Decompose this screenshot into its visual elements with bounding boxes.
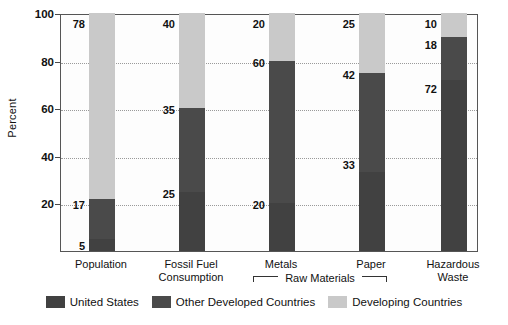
- segment-united-states: [89, 239, 115, 251]
- y-tick-60: 60: [24, 103, 54, 115]
- plot-area: 78 17 5 40 35 25 20 60 20 25 42 33: [60, 14, 478, 252]
- legend-swatch-icon-other-developed-countries: [152, 296, 171, 308]
- segment-developing-countries: [89, 13, 115, 199]
- segment-united-states: [441, 80, 467, 251]
- value-label-paper-other: 42: [325, 69, 355, 81]
- bracket-label: Raw Materials: [278, 272, 362, 284]
- legend-label-developing-countries: Developing Countries: [352, 296, 462, 308]
- segment-other-developed-countries: [89, 199, 115, 239]
- segment-developing-countries: [359, 13, 385, 73]
- value-label-hazardous-us: 72: [407, 83, 437, 95]
- x-label-hazardous-waste: Hazardous Waste: [426, 258, 479, 284]
- legend-item-developing-countries[interactable]: Developing Countries: [328, 296, 462, 308]
- bar-fossil-fuel-consumption[interactable]: [179, 13, 205, 251]
- value-label-population-other: 17: [55, 199, 85, 211]
- value-label-metals-developing: 20: [235, 18, 265, 30]
- value-label-metals-us: 20: [235, 199, 265, 211]
- bar-metals[interactable]: [269, 13, 295, 251]
- x-label-fossil-fuel: Fossil Fuel Consumption: [159, 258, 224, 284]
- segment-united-states: [269, 203, 295, 251]
- value-label-metals-other: 60: [235, 57, 265, 69]
- value-label-fossil-us: 25: [145, 188, 175, 200]
- segment-united-states: [179, 192, 205, 252]
- value-label-population-developing: 78: [55, 18, 85, 30]
- chart-legend: United States Other Developed Countries …: [0, 296, 508, 308]
- stacked-bar-chart: Percent 100 80 60 40 20 78 17 5: [0, 0, 508, 325]
- legend-label-united-states: United States: [70, 296, 139, 308]
- segment-other-developed-countries: [179, 108, 205, 191]
- raw-materials-bracket: Raw Materials: [253, 276, 387, 290]
- bracket-tick-right: [386, 276, 387, 282]
- legend-swatch-icon-developing-countries: [328, 296, 347, 308]
- value-label-hazardous-developing: 10: [407, 18, 437, 30]
- y-tick-40: 40: [24, 151, 54, 163]
- segment-united-states: [359, 172, 385, 251]
- bar-population[interactable]: [89, 13, 115, 251]
- segment-developing-countries: [441, 13, 467, 37]
- value-label-fossil-developing: 40: [145, 18, 175, 30]
- segment-other-developed-countries: [441, 37, 467, 80]
- y-axis-title: Percent: [6, 68, 18, 168]
- x-label-paper: Paper: [356, 258, 385, 271]
- legend-item-other-developed-countries[interactable]: Other Developed Countries: [152, 296, 315, 308]
- bar-hazardous-waste[interactable]: [441, 13, 467, 251]
- bracket-tick-left: [253, 276, 254, 282]
- bar-paper[interactable]: [359, 13, 385, 251]
- segment-other-developed-countries: [359, 73, 385, 173]
- segment-developing-countries: [269, 13, 295, 61]
- segment-developing-countries: [179, 13, 205, 108]
- legend-label-other-developed-countries: Other Developed Countries: [176, 296, 315, 308]
- value-label-paper-us: 33: [325, 159, 355, 171]
- y-axis-tick-labels: 100 80 60 40 20: [20, 0, 54, 325]
- value-label-population-us: 5: [55, 240, 85, 252]
- x-label-metals: Metals: [265, 258, 297, 271]
- value-label-fossil-other: 35: [145, 104, 175, 116]
- segment-other-developed-countries: [269, 61, 295, 204]
- y-tick-80: 80: [24, 56, 54, 68]
- value-label-paper-developing: 25: [325, 18, 355, 30]
- legend-swatch-icon-united-states: [46, 296, 65, 308]
- x-label-population: Population: [75, 258, 127, 271]
- y-tick-100: 100: [24, 8, 54, 20]
- y-tick-20: 20: [24, 198, 54, 210]
- legend-item-united-states[interactable]: United States: [46, 296, 139, 308]
- value-label-hazardous-other: 18: [407, 39, 437, 51]
